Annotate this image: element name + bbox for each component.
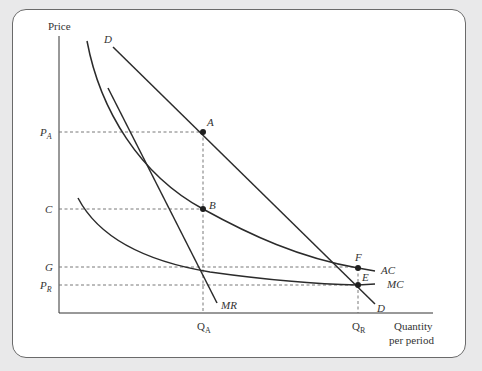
label-pa: PA xyxy=(39,126,52,141)
point-e xyxy=(355,282,361,288)
point-b xyxy=(200,206,206,212)
label-qr: QR xyxy=(352,320,366,335)
label-c: C xyxy=(45,203,53,215)
label-mr: MR xyxy=(220,299,237,311)
label-demand-top: D xyxy=(103,33,112,45)
y-axis-label: Price xyxy=(48,20,71,32)
label-qa: QA xyxy=(197,320,211,335)
point-a xyxy=(200,129,206,135)
label-point-b: B xyxy=(209,199,216,211)
average-cost-curve xyxy=(87,41,375,271)
label-point-a: A xyxy=(206,116,214,128)
x-axis-label-line2: per period xyxy=(389,334,434,346)
marginal-cost-curve xyxy=(78,198,375,285)
label-ac: AC xyxy=(380,264,396,276)
label-point-e: E xyxy=(361,271,369,283)
economics-diagram: Price Quantity per period PA C G PR QA Q… xyxy=(0,0,482,371)
x-axis-label-line1: Quantity xyxy=(394,320,433,332)
label-point-f: F xyxy=(354,251,362,263)
label-g: G xyxy=(45,261,53,273)
label-mc: MC xyxy=(386,278,404,290)
label-pr: PR xyxy=(39,279,52,294)
point-f xyxy=(355,265,361,271)
label-demand-bottom: D xyxy=(376,302,385,314)
